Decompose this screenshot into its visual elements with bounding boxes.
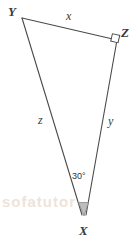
right-angle-marker-z: [111, 34, 120, 43]
triangle-drawing: [0, 0, 138, 243]
vertex-label-x: X: [79, 224, 88, 237]
angle-label-30-degrees: 30°: [72, 172, 86, 181]
geometry-figure: sofatutor Y Z X x y z 30°: [0, 0, 138, 243]
side-label-x: x: [66, 10, 71, 22]
vertex-label-z: Z: [121, 26, 129, 39]
segment-z: [22, 18, 82, 215]
side-label-y: y: [108, 115, 113, 127]
vertex-label-y: Y: [8, 5, 16, 18]
side-label-z: z: [38, 114, 43, 126]
